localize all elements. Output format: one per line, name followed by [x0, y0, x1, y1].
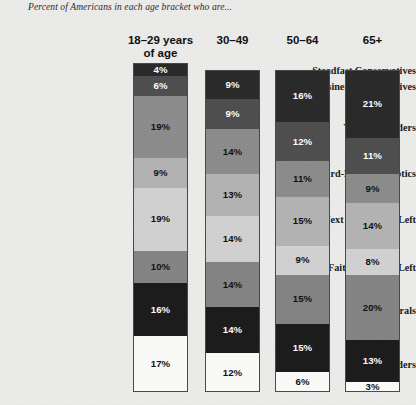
bar-segment[interactable]: 9%: [275, 246, 330, 275]
stacked-bar-chart: Percent of Americans in each age bracket…: [0, 0, 416, 405]
chart-title: Percent of Americans in each age bracket…: [28, 2, 232, 12]
bar-segment[interactable]: 16%: [275, 70, 330, 122]
bar-segment-value: 12%: [223, 368, 243, 378]
bar-segment[interactable]: 13%: [205, 174, 260, 216]
column-header-line1: 65+: [331, 34, 414, 47]
bar-segment[interactable]: 15%: [275, 197, 330, 246]
bar-segment-value: 13%: [363, 356, 383, 366]
bar-segment[interactable]: 15%: [275, 324, 330, 373]
bar-segment-value: 21%: [363, 99, 383, 109]
bar-column-65plus: 21%11%9%14%8%20%13%3%: [345, 70, 400, 392]
bar-segment-value: 4%: [153, 65, 167, 75]
bar-segment[interactable]: 17%: [133, 336, 188, 392]
bar-column-30-49: 9%9%14%13%14%14%14%12%: [205, 70, 260, 392]
column-header-line2: of age: [119, 47, 202, 60]
bar-segment-value: 15%: [293, 343, 313, 353]
bar-segment-value: 14%: [223, 325, 243, 335]
bar-segment[interactable]: 3%: [345, 382, 400, 392]
bar-segment[interactable]: 12%: [275, 122, 330, 161]
bar-segment[interactable]: 21%: [345, 70, 400, 138]
column-header-line1: 18–29 years: [119, 34, 202, 47]
bar-segment[interactable]: 6%: [275, 372, 330, 392]
bar-segment[interactable]: 14%: [205, 307, 260, 353]
bar-segment[interactable]: 6%: [133, 76, 188, 96]
bar-segment-value: 9%: [153, 168, 167, 178]
bar-segment[interactable]: 14%: [205, 216, 260, 262]
bar-segment[interactable]: 10%: [133, 251, 188, 284]
bar-segment[interactable]: 11%: [275, 161, 330, 197]
bar-segment-value: 15%: [293, 294, 313, 304]
bar-segment[interactable]: 14%: [205, 262, 260, 308]
bar-segment[interactable]: 9%: [205, 99, 260, 128]
bar-segment-value: 14%: [223, 147, 243, 157]
bar-segment-value: 16%: [151, 305, 171, 315]
bar-segment-value: 14%: [223, 234, 243, 244]
bar-segment[interactable]: 19%: [133, 188, 188, 251]
bar-segment[interactable]: 20%: [345, 275, 400, 340]
bar-segment-value: 9%: [225, 80, 239, 90]
bar-segment-value: 12%: [293, 137, 313, 147]
bar-segment-value: 9%: [225, 109, 239, 119]
bar-segment-value: 8%: [365, 257, 379, 267]
bar-segment[interactable]: 9%: [345, 174, 400, 203]
bar-segment-value: 15%: [293, 216, 313, 226]
column-header-65plus: 65+: [331, 34, 414, 47]
bar-segment-value: 6%: [153, 81, 167, 91]
bar-segment-value: 10%: [151, 262, 171, 272]
bar-segment-value: 6%: [295, 377, 309, 387]
bar-segment[interactable]: 14%: [345, 203, 400, 249]
bar-segment-value: 17%: [151, 359, 171, 369]
bar-segment-value: 19%: [151, 214, 171, 224]
bar-segment-value: 16%: [293, 91, 313, 101]
bar-segment[interactable]: 8%: [345, 249, 400, 275]
bar-segment-value: 3%: [365, 382, 379, 392]
bar-segment-value: 14%: [363, 221, 383, 231]
bar-segment[interactable]: 14%: [205, 129, 260, 175]
bar-segment[interactable]: 19%: [133, 96, 188, 159]
bar-column-50-64: 16%12%11%15%9%15%15%6%: [275, 70, 330, 392]
bar-segment[interactable]: 4%: [133, 63, 188, 76]
bar-segment[interactable]: 15%: [275, 275, 330, 324]
bar-segment[interactable]: 9%: [205, 70, 260, 99]
bar-segment-value: 9%: [295, 255, 309, 265]
bar-segment[interactable]: 9%: [133, 158, 188, 188]
bar-column-18-29: 4%6%19%9%19%10%16%17%: [133, 63, 188, 392]
bar-segment-value: 9%: [365, 184, 379, 194]
bar-segment[interactable]: 16%: [133, 283, 188, 336]
bar-segment-value: 11%: [293, 174, 312, 184]
bar-segment[interactable]: 12%: [205, 353, 260, 392]
bar-segment-value: 20%: [363, 303, 383, 313]
bar-segment-value: 19%: [151, 122, 171, 132]
bar-segment-value: 13%: [223, 190, 243, 200]
column-header-18-29: 18–29 yearsof age: [119, 34, 202, 60]
bar-segment[interactable]: 11%: [345, 138, 400, 174]
bar-segment-value: 11%: [363, 151, 382, 161]
bar-segment-value: 14%: [223, 280, 243, 290]
bar-segment[interactable]: 13%: [345, 340, 400, 382]
